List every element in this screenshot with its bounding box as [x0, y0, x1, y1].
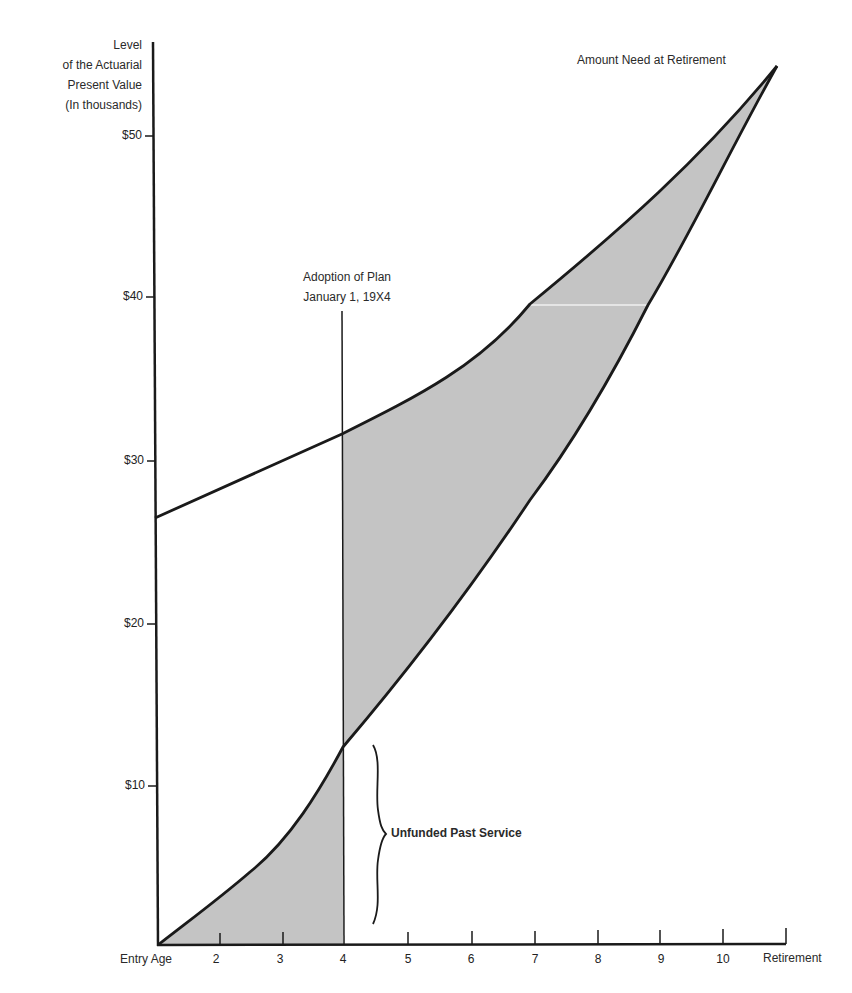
brace-icon [373, 745, 386, 924]
x-tick-label: 9 [646, 952, 676, 966]
x-tick-label: 6 [456, 952, 486, 966]
x-tick-label: 2 [201, 952, 231, 966]
funding-gap-area [343, 66, 777, 747]
x-tick-label: 8 [583, 952, 613, 966]
adoption-annotation-line2: January 1, 19X4 [287, 290, 407, 304]
y-axis [153, 42, 158, 946]
x-tick-label: 3 [265, 952, 295, 966]
amount-need-annotation: Amount Need at Retirement [577, 53, 726, 67]
chart-plot [0, 0, 852, 993]
x-tick-label-retirement: Retirement [763, 951, 822, 965]
unfunded-past-service-annotation: Unfunded Past Service [391, 826, 522, 840]
y-tick-label: $10 [105, 778, 145, 792]
unfunded-past-service-area [158, 747, 343, 945]
y-tick-label: $40 [103, 289, 143, 303]
y-tick-label: $20 [104, 616, 144, 630]
adoption-annotation-line1: Adoption of Plan [287, 270, 407, 284]
x-tick-label-entry-age: Entry Age [120, 952, 172, 966]
y-tick-label: $50 [102, 128, 142, 142]
y-tick-label: $30 [104, 453, 144, 467]
x-tick-label: 4 [328, 952, 358, 966]
x-tick-label: 7 [520, 952, 550, 966]
x-tick-label: 5 [393, 952, 423, 966]
x-tick-label: 10 [708, 952, 738, 966]
